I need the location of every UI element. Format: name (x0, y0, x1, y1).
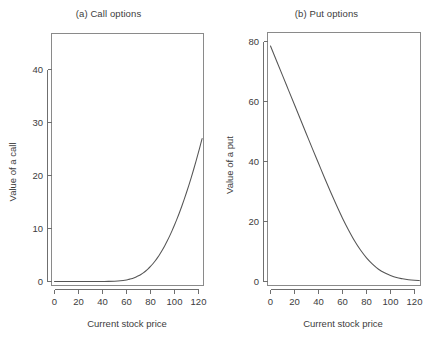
panel-a-ytick-10: 10 (32, 223, 43, 234)
panel-b-x-ticklabels: 0 20 40 60 80 100 120 (268, 296, 423, 307)
panel-b-xtick-120: 120 (407, 296, 423, 307)
panel-a-xtick-60: 60 (121, 296, 132, 307)
option-value-figure: (a) Call options 0 10 20 30 40 (0, 0, 435, 340)
panel-put-options: (b) Put options 0 20 40 60 80 (218, 0, 435, 340)
panel-b-ytick-0: 0 (254, 276, 259, 287)
panel-a-plot-box (52, 34, 204, 286)
panel-b-ytick-40: 40 (248, 156, 259, 167)
panel-b-plot: 0 20 40 60 80 0 20 40 60 (218, 0, 435, 340)
panel-a-plot: 0 10 20 30 40 0 20 40 60 (0, 0, 217, 340)
panel-a-ytick-40: 40 (32, 64, 43, 75)
panel-a-xtick-120: 120 (191, 296, 207, 307)
panel-b-xtick-80: 80 (361, 296, 372, 307)
panel-a-y-ticklabels: 0 10 20 30 40 (32, 64, 43, 287)
panel-a-x-ticks (55, 290, 199, 294)
panel-a-ylabel: Value of a call (7, 143, 18, 202)
panel-a-xtick-40: 40 (97, 296, 108, 307)
panel-a-x-ticklabels: 0 20 40 60 80 100 120 (52, 296, 207, 307)
put-value-curve (271, 46, 420, 281)
panel-b-y-ticklabels: 0 20 40 60 80 (248, 36, 259, 287)
panel-b-ytick-20: 20 (248, 216, 259, 227)
panel-a-ytick-30: 30 (32, 117, 43, 128)
panel-b-y-ticks (264, 42, 268, 282)
panel-b-xtick-20: 20 (289, 296, 300, 307)
panel-b-x-ticks (271, 290, 415, 294)
panel-b-ylabel: Value of a put (224, 136, 235, 194)
panel-a-xtick-100: 100 (167, 296, 183, 307)
panel-b-xtick-40: 40 (313, 296, 324, 307)
panel-b-ytick-80: 80 (248, 36, 259, 47)
panel-b-plot-box (268, 33, 421, 286)
call-value-curve (55, 139, 203, 282)
panel-call-options: (a) Call options 0 10 20 30 40 (0, 0, 217, 340)
panel-a-xtick-0: 0 (52, 296, 57, 307)
panel-a-xtick-80: 80 (145, 296, 156, 307)
panel-a-ytick-20: 20 (32, 170, 43, 181)
panel-a-y-ticks (48, 70, 52, 282)
panel-b-xtick-100: 100 (383, 296, 399, 307)
panel-a-xtick-20: 20 (73, 296, 84, 307)
panel-b-ytick-60: 60 (248, 96, 259, 107)
panel-b-xtick-60: 60 (337, 296, 348, 307)
panel-b-xtick-0: 0 (268, 296, 273, 307)
panel-b-xlabel: Current stock price (303, 318, 383, 329)
panel-a-xlabel: Current stock price (87, 318, 167, 329)
panel-a-ytick-0: 0 (38, 276, 43, 287)
